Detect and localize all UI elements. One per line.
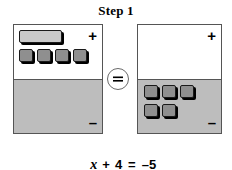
unit-tile[interactable] (144, 85, 158, 98)
unit-tile[interactable] (19, 49, 33, 62)
unit-tile[interactable] (162, 104, 176, 117)
equation-equals-operator: = (128, 157, 136, 170)
unit-tile[interactable] (144, 104, 158, 117)
algebra-tiles-diagram: Step 1 + – + – x+4=–5 (0, 0, 232, 170)
equation-variable: x (90, 157, 97, 170)
unit-tile[interactable] (73, 49, 87, 62)
x-tile[interactable] (19, 30, 62, 43)
unit-tile[interactable] (55, 49, 69, 62)
left-expression-mat[interactable]: + – (13, 24, 103, 134)
plus-sign-icon: + (88, 28, 97, 43)
unit-tile[interactable] (162, 85, 176, 98)
unit-tile[interactable] (37, 49, 51, 62)
minus-sign-icon: – (208, 115, 216, 130)
minus-sign-icon: – (89, 115, 97, 130)
equals-badge-icon (107, 68, 129, 90)
equation-constant: 4 (115, 157, 122, 170)
plus-sign-icon: + (207, 28, 216, 43)
right-expression-mat[interactable]: + – (137, 24, 222, 134)
equation-plus-operator: + (102, 157, 110, 170)
unit-tile[interactable] (180, 85, 194, 98)
page-title: Step 1 (0, 3, 232, 19)
equation-caption: x+4=–5 (0, 142, 232, 170)
equation-right-side: –5 (142, 157, 156, 170)
